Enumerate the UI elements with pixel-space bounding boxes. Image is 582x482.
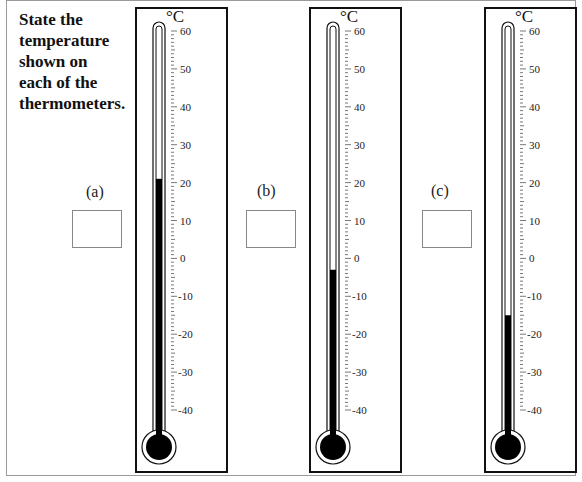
scale-label: 50 xyxy=(529,63,541,75)
scale-label: 30 xyxy=(180,139,192,151)
scale-label: -40 xyxy=(352,404,367,416)
scale-label: 60 xyxy=(354,25,366,37)
scale-label: 10 xyxy=(354,215,366,227)
scale-label: 40 xyxy=(529,101,541,113)
thermometer-c-bulb xyxy=(495,434,521,460)
scale-label: -20 xyxy=(178,328,193,340)
scale-label: -40 xyxy=(527,404,542,416)
thermometer-a-unit: °C xyxy=(166,7,184,26)
scale-label: -30 xyxy=(352,366,367,378)
scale-label: -20 xyxy=(352,328,367,340)
thermometer-a-bulb xyxy=(146,434,172,460)
scale-label: 0 xyxy=(529,252,535,264)
thermometer-c-mercury xyxy=(505,315,511,447)
thermometer-b-bulb xyxy=(320,434,346,460)
scale-label: 60 xyxy=(180,25,192,37)
scale-label: 10 xyxy=(180,215,192,227)
thermometer-b-unit: °C xyxy=(340,7,358,26)
scale-label: -10 xyxy=(527,290,542,302)
scale-label: 0 xyxy=(180,252,186,264)
scale-label: 60 xyxy=(529,25,541,37)
scale-label: 30 xyxy=(529,139,541,151)
scale-label: 0 xyxy=(354,252,360,264)
scale-label: 10 xyxy=(529,215,541,227)
thermometer-a-mercury xyxy=(156,179,162,447)
scale-label: 20 xyxy=(180,177,192,189)
scale-label: -30 xyxy=(178,366,193,378)
thermometers-drawing: °C6050403020100-10-20-30-40°C60504030201… xyxy=(0,0,582,482)
scale-label: -10 xyxy=(352,290,367,302)
scale-label: 40 xyxy=(354,101,366,113)
thermometer-b-mercury xyxy=(330,270,336,447)
thermometer-c-unit: °C xyxy=(515,7,533,26)
scale-label: 30 xyxy=(354,139,366,151)
scale-label: -30 xyxy=(527,366,542,378)
scale-label: 50 xyxy=(180,63,192,75)
scale-label: -10 xyxy=(178,290,193,302)
scale-label: -20 xyxy=(527,328,542,340)
scale-label: -40 xyxy=(178,404,193,416)
scale-label: 50 xyxy=(354,63,366,75)
scale-label: 40 xyxy=(180,101,192,113)
scale-label: 20 xyxy=(529,177,541,189)
scale-label: 20 xyxy=(354,177,366,189)
